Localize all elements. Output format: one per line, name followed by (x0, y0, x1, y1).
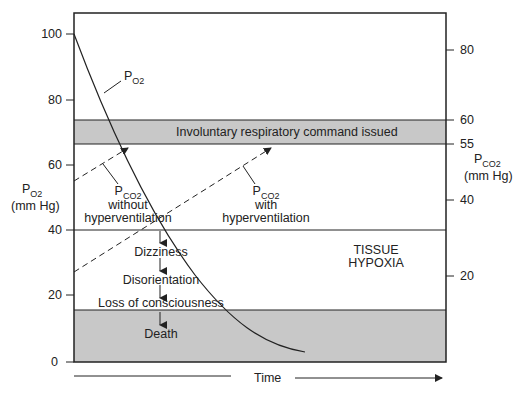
pco2-without-line (74, 148, 128, 181)
svg-text:60: 60 (460, 113, 474, 127)
svg-text:(mm Hg): (mm Hg) (464, 169, 513, 183)
svg-text:Dizziness: Dizziness (134, 245, 188, 259)
svg-text:PCO2: PCO2 (474, 152, 501, 169)
svg-text:Death: Death (144, 327, 177, 341)
left-axis-labels: 100 80 60 40 20 0 (41, 27, 62, 369)
right-axis-title: PCO2 (mm Hg) (464, 152, 513, 183)
svg-text:40: 40 (460, 193, 474, 207)
svg-text:with: with (254, 198, 277, 212)
svg-text:55: 55 (460, 137, 474, 151)
svg-text:PO2: PO2 (22, 182, 42, 199)
right-axis-ticks (446, 50, 454, 276)
pco2-with-leader (243, 166, 255, 184)
svg-text:80: 80 (48, 93, 62, 107)
svg-text:(mm Hg): (mm Hg) (11, 199, 60, 213)
svg-text:without: without (107, 198, 148, 212)
svg-text:hyperventilation: hyperventilation (222, 211, 310, 225)
right-axis-labels: 80 60 55 40 20 (460, 43, 474, 283)
respiratory-command-label: Involuntary respiratory command issued (176, 125, 398, 139)
svg-text:40: 40 (48, 223, 62, 237)
hypoxia-diagram: 100 80 60 40 20 0 80 60 55 40 20 PO2 (mm… (0, 0, 516, 396)
tissue-hypoxia-label: TISSUE (353, 243, 398, 257)
svg-text:Loss of consciousness: Loss of consciousness (98, 296, 224, 310)
svg-text:hyperventilation: hyperventilation (84, 211, 172, 225)
left-axis-title: PO2 (mm Hg) (11, 182, 60, 213)
pco2-without-label: PCO2 without hyperventilation (84, 184, 172, 225)
po2-curve-label: PO2 (124, 69, 144, 86)
svg-text:20: 20 (460, 269, 474, 283)
svg-text:0: 0 (51, 355, 58, 369)
svg-text:80: 80 (460, 43, 474, 57)
svg-text:20: 20 (48, 288, 62, 302)
pco2-with-label: PCO2 with hyperventilation (222, 184, 310, 225)
pco2-without-leader (103, 164, 118, 184)
po2-leader (104, 81, 121, 93)
time-axis-label: Time (254, 371, 281, 385)
svg-text:Disorientation: Disorientation (123, 273, 199, 287)
svg-text:100: 100 (41, 27, 62, 41)
tissue-hypoxia-label-2: HYPOXIA (348, 256, 404, 270)
left-axis-ticks (66, 34, 74, 362)
svg-text:60: 60 (48, 158, 62, 172)
